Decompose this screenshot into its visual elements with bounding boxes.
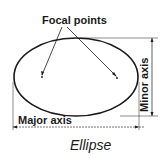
ellipse-shape	[14, 38, 138, 116]
focal-leader-left	[42, 27, 62, 75]
focal-points-label: Focal points	[42, 14, 107, 26]
major-arrow-left-icon	[13, 126, 17, 129]
diagram-title: Ellipse	[70, 137, 111, 153]
minor-arrow-top-icon	[151, 38, 154, 42]
focal-leader-right	[67, 27, 116, 76]
focal-point-right	[116, 77, 118, 79]
major-axis-label: Major axis	[18, 114, 72, 126]
ellipse-diagram: Focal points Major axis Minor axis Ellip…	[0, 0, 165, 158]
minor-arrow-bottom-icon	[151, 112, 154, 116]
focal-point-left	[41, 76, 43, 78]
major-arrow-right-icon	[135, 126, 139, 129]
minor-axis-label: Minor axis	[138, 58, 150, 112]
